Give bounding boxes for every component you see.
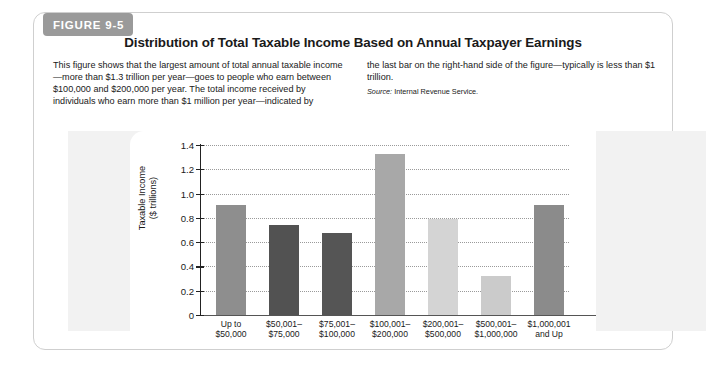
- source-text: Internal Revenue Service.: [392, 87, 478, 96]
- bar: [481, 276, 511, 315]
- x-tick-label-line: $50,001–: [266, 319, 302, 329]
- x-tick-label-line: and Up: [535, 329, 563, 339]
- caption-right-text: the last bar on the right-hand side of t…: [367, 60, 655, 82]
- y-tick-mark: [196, 266, 204, 267]
- y-tick-label: 0: [189, 310, 194, 321]
- gridline: [201, 145, 569, 146]
- x-tick-label-line: $75,001–: [319, 319, 355, 329]
- source-label: Source:: [367, 87, 392, 96]
- y-tick-label: 1.4: [181, 140, 194, 151]
- bar: [216, 205, 246, 316]
- x-tick-label: $75,001–$100,000: [309, 319, 365, 340]
- x-tick-label: $50,001–$75,000: [256, 319, 312, 340]
- x-tick-label: Up to$50,000: [203, 319, 259, 340]
- source-line: Source: Internal Revenue Service.: [367, 86, 657, 98]
- y-tick-mark: [196, 291, 204, 292]
- y-axis-title-line2: ($ trillions): [148, 177, 158, 219]
- x-tick-label-line: $50,000: [215, 329, 246, 339]
- x-tick-label: $500,001–$1,000,000: [468, 319, 524, 340]
- bar: [428, 219, 458, 315]
- y-tick-label: 0.2: [181, 285, 194, 296]
- y-tick-mark: [196, 315, 204, 316]
- x-tick-label-line: $1,000,001: [527, 319, 570, 329]
- x-tick-label: $100,001–$200,000: [362, 319, 418, 340]
- x-tick-label-line: $500,000: [425, 329, 461, 339]
- y-tick-label: 1.0: [181, 188, 194, 199]
- y-tick-mark: [196, 169, 204, 170]
- caption-left-column: This figure shows that the largest amoun…: [53, 59, 343, 107]
- bar: [269, 225, 299, 315]
- plot-area: 1.41.21.00.80.60.40.20 Up to$50,000$50,0…: [200, 145, 590, 315]
- x-tick-label-line: $500,001–: [476, 319, 517, 329]
- x-tick-label-line: $75,000: [268, 329, 299, 339]
- y-tick-label: 0.8: [181, 212, 194, 223]
- y-axis-title-line1: Taxable Income: [137, 166, 147, 230]
- x-tick-label-line: $100,000: [319, 329, 355, 339]
- bar: [375, 154, 405, 316]
- x-tick-label-line: $200,001–: [423, 319, 464, 329]
- bar-chart: Taxable Income ($ trillions) 1.41.21.00.…: [130, 139, 600, 344]
- x-tick-label-line: $100,001–: [370, 319, 411, 329]
- y-tick-mark: [196, 145, 204, 146]
- y-tick-mark: [196, 218, 204, 219]
- x-tick-label-line: Up to: [221, 319, 242, 329]
- x-tick-label-line: $200,000: [372, 329, 408, 339]
- x-tick-label: $200,001–$500,000: [415, 319, 471, 340]
- caption-right-column: the last bar on the right-hand side of t…: [367, 59, 657, 98]
- y-tick-mark: [196, 242, 204, 243]
- page-title: Distribution of Total Taxable Income Bas…: [33, 35, 673, 50]
- y-axis-title: Taxable Income ($ trillions): [137, 138, 159, 258]
- y-tick-label: 0.4: [181, 261, 194, 272]
- bar: [534, 205, 564, 315]
- x-tick-label: $1,000,001and Up: [521, 319, 577, 340]
- bar: [322, 233, 352, 315]
- y-tick-label: 0.6: [181, 237, 194, 248]
- x-tick-label-line: $1,000,000: [474, 329, 517, 339]
- figure-number-tag: FIGURE 9-5: [43, 13, 133, 36]
- y-tick-mark: [196, 194, 204, 195]
- y-tick-label: 1.2: [181, 164, 194, 175]
